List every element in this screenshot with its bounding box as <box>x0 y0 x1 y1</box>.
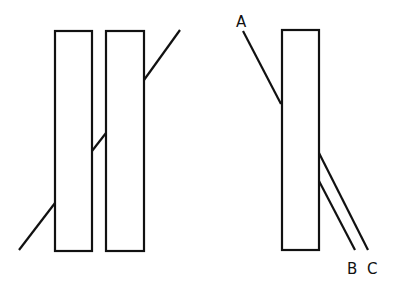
left-figure <box>19 30 180 251</box>
label-a: A <box>236 13 247 31</box>
ray-a <box>243 31 281 104</box>
ray-c <box>319 153 368 250</box>
right-figure <box>243 30 368 250</box>
ray-emergent <box>144 30 180 80</box>
glass-slab-1 <box>55 31 92 251</box>
glass-slab-2 <box>106 31 144 251</box>
refraction-diagram: A B C <box>0 0 401 281</box>
label-c: C <box>367 260 377 278</box>
ray-between-slabs <box>92 133 106 151</box>
label-b: B <box>347 260 357 278</box>
glass-slab-single <box>282 30 319 250</box>
ray-incident <box>19 203 55 250</box>
